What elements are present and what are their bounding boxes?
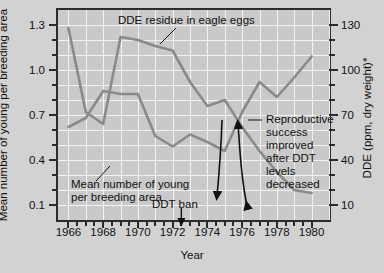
y-axis-left-title-text: Mean number of young per breeding area [0,9,9,221]
y-left-tick-minor [52,54,58,56]
gridline-horizontal [58,55,329,56]
y-right-tick-minor [329,99,335,101]
annotation-repro-line6: decreased [266,178,336,191]
annotation-mean-series-line1: Mean number of young [71,178,189,191]
y-right-tick-minor [329,39,335,41]
y-left-tick-minor [52,189,58,191]
y-left-ticklabel: 1.3 [11,19,45,31]
y-left-ticklabel: 0.1 [11,199,45,211]
annotation-dde-series: DDE residue in eagle eggs [118,14,255,27]
y-left-tick-minor [52,84,58,86]
gridline-horizontal [58,40,329,41]
x-axis-title: Year [0,249,384,261]
y-left-tick-major [49,204,58,206]
x-ticklabel: 1980 [292,226,332,238]
y-left-ticklabel: 0.4 [11,154,45,166]
annotation-repro-line5: levels [266,165,336,178]
y-left-tick-minor [52,144,58,146]
y-left-tick-minor [52,129,58,131]
gridline-horizontal [58,70,329,71]
chart-figure: Mean number of young per breeding area D… [0,0,384,273]
footnote-clipped [0,266,384,273]
y-right-ticklabel: 70 [341,109,375,121]
y-right-tick-major [329,69,338,71]
y-left-tick-minor [52,174,58,176]
y-right-ticklabel: 40 [341,154,375,166]
gridline-horizontal [58,85,329,86]
y-right-tick-major [329,204,338,206]
y-axis-left-title: Mean number of young per breeding area [0,0,10,230]
y-left-tick-major [49,69,58,71]
y-right-ticklabel: 100 [341,64,375,76]
annotation-reproductive-note: Reproductive success improved after DDT … [266,113,336,191]
y-left-tick-minor [52,39,58,41]
annotation-repro-line1: Reproductive [266,113,336,126]
annotation-ddt-ban: DDT ban [152,198,198,211]
y-left-tick-minor [52,99,58,101]
y-left-ticklabel: 1.0 [11,64,45,76]
y-right-tick-major [329,24,338,26]
y-left-tick-major [49,159,58,161]
annotation-repro-line4: after DDT [266,152,336,165]
y-right-ticklabel: 10 [341,199,375,211]
annotation-repro-line2: success [266,126,336,139]
y-right-tick-minor [329,84,335,86]
y-left-tick-major [49,24,58,26]
y-left-tick-major [49,114,58,116]
annotation-repro-line3: improved [266,139,336,152]
gridline-horizontal [58,100,329,101]
y-right-ticklabel: 130 [341,19,375,31]
y-right-tick-minor [329,54,335,56]
y-left-ticklabel: 0.7 [11,109,45,121]
